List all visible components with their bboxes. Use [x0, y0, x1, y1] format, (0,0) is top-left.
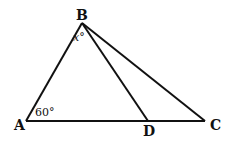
- label-a: A: [13, 117, 26, 133]
- angle-x-label: x°: [73, 31, 85, 44]
- segment-bc: [82, 23, 205, 121]
- label-d: D: [143, 123, 155, 139]
- angle-a-label: 60°: [35, 106, 55, 119]
- label-c: C: [210, 117, 221, 133]
- label-b: B: [76, 7, 88, 23]
- triangle-diagram: B A D C 60° x°: [0, 0, 229, 141]
- segment-bd: [82, 23, 148, 121]
